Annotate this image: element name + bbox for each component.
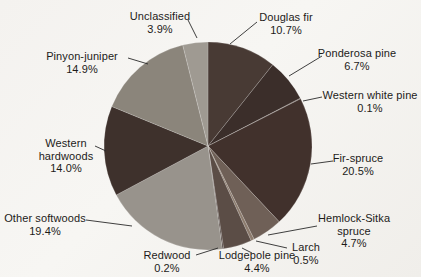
slice-label-value: 14.0% — [39, 162, 94, 175]
slice-label-value: 0.5% — [292, 254, 320, 267]
slice-label-value: 14.9% — [46, 63, 118, 76]
slice-label-redwood: Redwood0.2% — [143, 249, 190, 274]
slice-label-name: Western white pine — [322, 89, 417, 102]
slice-label-western-hardwoods: Westernhardwoods14.0% — [39, 137, 94, 175]
slice-label-name: Pinyon-juniper — [46, 50, 118, 63]
leader-line-western-white-pine — [303, 97, 322, 101]
slice-label-larch: Larch0.5% — [292, 241, 320, 266]
slice-label-name: hardwoods — [39, 150, 94, 163]
leader-line-fir-spruce — [311, 161, 333, 164]
slice-label-fir-spruce: Fir-spruce20.5% — [333, 152, 384, 177]
slice-label-name: Fir-spruce — [333, 152, 384, 165]
slice-label-name: Douglas fir — [259, 11, 313, 24]
slice-label-value: 4.4% — [219, 262, 296, 275]
slice-label-name: Hemlock-Sitka — [318, 212, 390, 225]
leader-line-other-softwoods — [86, 220, 132, 226]
leader-line-larch — [256, 241, 287, 248]
slice-label-name: Lodgepole pine — [219, 249, 296, 262]
slice-label-value: 3.9% — [130, 23, 191, 36]
slice-label-value: 6.7% — [318, 60, 396, 73]
slice-label-value: 10.7% — [259, 24, 313, 37]
slice-label-name: Western — [39, 137, 94, 150]
leader-line-pinyon-juniper — [128, 58, 148, 64]
slice-label-name: Ponderosa pine — [318, 47, 396, 60]
pie-chart-figure: Douglas fir10.7%Ponderosa pine6.7%Wester… — [0, 0, 421, 277]
slice-label-name: spruce — [318, 225, 390, 238]
slice-label-name: Unclassified — [130, 10, 191, 23]
slice-label-ponderosa-pine: Ponderosa pine6.7% — [318, 47, 396, 72]
slice-label-unclassified: Unclassified3.9% — [130, 10, 191, 35]
slice-label-name: Larch — [292, 241, 320, 254]
slice-label-value: 20.5% — [333, 165, 384, 178]
slice-label-western-white-pine: Western white pine0.1% — [322, 89, 417, 114]
slice-label-other-softwoods: Other softwoods19.4% — [4, 212, 86, 237]
leader-line-hemlock-sitka-spruce — [268, 226, 317, 235]
leader-line-douglas-fir — [230, 22, 257, 44]
slice-label-value: 19.4% — [4, 225, 86, 238]
slice-label-name: Other softwoods — [4, 212, 86, 225]
slice-label-pinyon-juniper: Pinyon-juniper14.9% — [46, 50, 118, 75]
slice-label-name: Redwood — [143, 249, 190, 262]
slice-label-hemlock-sitka-spruce: Hemlock-Sitkaspruce4.7% — [318, 212, 390, 250]
slice-label-value: 0.2% — [143, 262, 190, 275]
slice-label-lodgepole-pine: Lodgepole pine4.4% — [219, 249, 296, 274]
slice-label-douglas-fir: Douglas fir10.7% — [259, 11, 313, 36]
slice-label-value: 4.7% — [318, 237, 390, 250]
slice-label-value: 0.1% — [322, 102, 417, 115]
